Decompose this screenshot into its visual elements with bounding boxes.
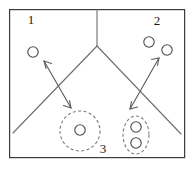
- node-region2-a: [144, 37, 154, 47]
- region-label-1: 1: [28, 12, 35, 27]
- right-diagonal-divider-line: [97, 46, 181, 134]
- node-cluster-right-b: [131, 138, 141, 148]
- arrow-right-shaft: [130, 58, 159, 109]
- arrow-left-bidirectional: [44, 61, 71, 108]
- region-label-3: 3: [100, 141, 107, 156]
- arrow-left-shaft: [44, 61, 71, 108]
- region-labels-group: 1 2 3: [28, 12, 161, 156]
- node-cluster-right-a: [131, 122, 141, 132]
- left-diagonal-divider-line: [13, 46, 97, 133]
- diagram-canvas: 1 2 3: [0, 0, 194, 171]
- node-region1-a: [28, 47, 38, 57]
- node-cluster-left-a: [75, 125, 85, 135]
- arrow-right-bidirectional: [130, 58, 159, 109]
- figure-container: 1 2 3: [0, 0, 194, 171]
- region-label-2: 2: [154, 13, 161, 28]
- cluster-left-outline: [60, 111, 100, 151]
- partition-lines: [13, 10, 181, 134]
- node-region2-b: [162, 45, 172, 55]
